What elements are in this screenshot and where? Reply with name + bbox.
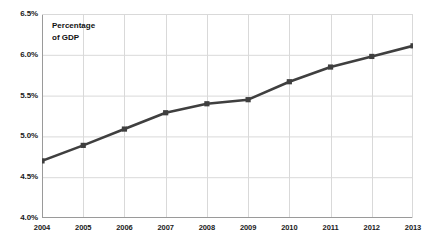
plot-area <box>42 14 413 218</box>
x-axis-tick-label: 2013 <box>393 224 425 232</box>
series-line-percentage-of-gdp <box>42 46 413 161</box>
series-annotation-label: Percentage of GDP <box>52 20 95 43</box>
vertical-gridlines <box>43 14 414 218</box>
x-axis-tick-label: 2009 <box>228 224 268 232</box>
x-axis-tick-label: 2012 <box>352 224 392 232</box>
x-axis-tick-label: 2010 <box>269 224 309 232</box>
horizontal-gridlines <box>42 15 413 219</box>
x-axis-tick-label: 2011 <box>311 224 351 232</box>
x-axis-tick-label: 2005 <box>63 224 103 232</box>
x-axis-tick-label: 2008 <box>187 224 227 232</box>
plot-canvas <box>42 14 413 218</box>
x-axis-tick-label: 2007 <box>146 224 186 232</box>
x-axis-tick-label: 2004 <box>22 224 62 232</box>
axis-lines <box>42 14 413 218</box>
x-axis-tick-label: 2006 <box>104 224 144 232</box>
line-chart: 4.0%4.5%5.0%5.5%6.0%6.5% 200420052006200… <box>0 0 425 248</box>
